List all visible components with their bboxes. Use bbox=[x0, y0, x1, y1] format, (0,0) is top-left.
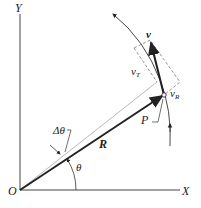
radius-label: R bbox=[98, 137, 107, 151]
polar-velocity-diagram: O X Y R P v vT vR θ Δθ bbox=[0, 0, 201, 208]
delta-theta-line bbox=[20, 82, 157, 190]
radius-vector-arrow bbox=[20, 96, 162, 190]
point-label: P bbox=[140, 113, 149, 127]
origin-label: O bbox=[8, 184, 17, 198]
tangential-velocity-label: vT bbox=[131, 65, 141, 79]
delta-theta-tick bbox=[50, 145, 60, 154]
x-axis-label: X bbox=[181, 184, 190, 198]
radial-velocity-label: vR bbox=[170, 87, 180, 101]
delta-theta-label: Δθ bbox=[52, 124, 65, 136]
theta-arc bbox=[67, 159, 76, 190]
velocity-label: v bbox=[146, 28, 151, 40]
point-p bbox=[162, 93, 166, 97]
delta-theta-leader bbox=[65, 130, 71, 152]
theta-label: θ bbox=[76, 161, 82, 173]
y-axis-label: Y bbox=[15, 1, 23, 15]
